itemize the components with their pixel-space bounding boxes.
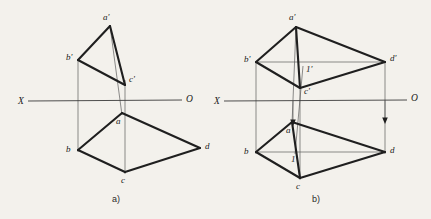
technical-drawing-figure: X O a' b' c' a b c d a) (0, 0, 431, 219)
point-label-d: d (205, 141, 210, 151)
point-label-a-prime: a' (103, 12, 111, 22)
point-label-b-a: a (286, 125, 291, 135)
point-label-b-a-prime: a' (289, 12, 297, 22)
axis-label-o-right: O (186, 94, 193, 104)
projection-drawing-canvas: X O a' b' c' a b c d a) (0, 0, 431, 219)
point-label-b-d: d (390, 145, 395, 155)
point-label-b-b-prime: b' (244, 54, 252, 64)
figure-caption-b: b) (312, 194, 320, 204)
point-label-b: b (66, 144, 71, 154)
point-label-c: c (121, 175, 125, 185)
axis-label-o-right-b: O (411, 93, 418, 103)
point-label-b-one-prime: 1' (306, 64, 314, 74)
point-label-b-c: c (296, 181, 300, 191)
point-label-b-d-prime: d' (390, 53, 398, 63)
axis-label-x-left: X (17, 96, 25, 106)
point-label-b-b: b (244, 146, 249, 156)
point-label-b-one: 1 (291, 154, 296, 164)
point-label-a: a (116, 116, 121, 126)
figure-caption-a: a) (112, 194, 120, 204)
paper-background (0, 0, 431, 219)
axis-label-x-left-b: X (213, 96, 221, 106)
point-label-b-prime: b' (66, 52, 74, 62)
